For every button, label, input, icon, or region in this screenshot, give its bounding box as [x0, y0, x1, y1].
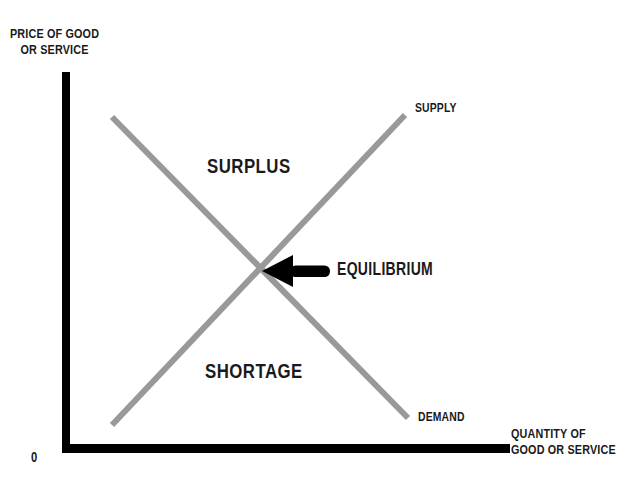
x-axis-label: QUANTITY OF GOOD OR SERVICE: [511, 426, 616, 458]
supply-demand-diagram: PRICE OF GOOD OR SERVICE 0 SURPLUS SHORT…: [0, 0, 630, 491]
plot-area: [0, 0, 630, 491]
x-axis-label-line1: QUANTITY OF: [511, 426, 616, 442]
equilibrium-label: EQUILIBRIUM: [337, 259, 433, 280]
demand-curve-label: DEMAND: [418, 409, 465, 424]
x-axis-label-line2: GOOD OR SERVICE: [511, 442, 616, 458]
shortage-region-label: SHORTAGE: [205, 359, 303, 384]
supply-curve-label: SUPPLY: [415, 100, 457, 115]
surplus-region-label: SURPLUS: [207, 154, 291, 179]
